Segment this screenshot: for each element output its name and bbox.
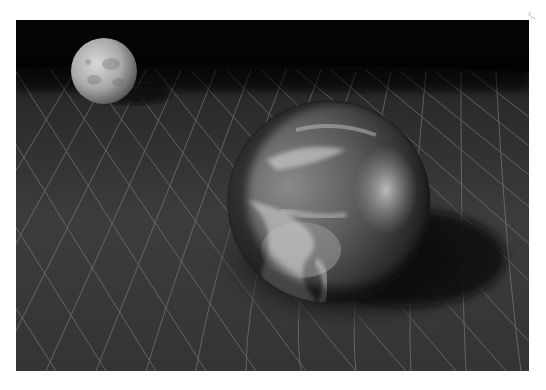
corner-watermark [526, 6, 538, 16]
space-time-illustration [16, 20, 529, 371]
moon [71, 38, 137, 104]
watermark-icon [526, 11, 538, 21]
scene-svg [16, 20, 529, 371]
